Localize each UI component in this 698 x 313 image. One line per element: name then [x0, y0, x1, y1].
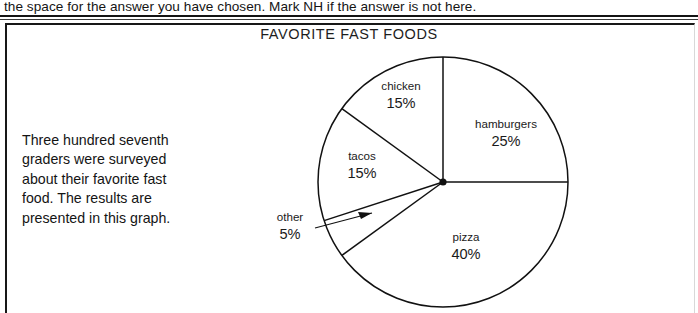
problem-statement-text: Three hundred seventh graders were surve… [22, 131, 200, 228]
slice-name-tacos: tacos [348, 149, 376, 162]
horizontal-rule-thick [0, 15, 698, 17]
pie-slice-label-other: other5% [277, 210, 304, 242]
horizontal-rule-thin [0, 19, 698, 20]
slice-name-hamburgers: hamburgers [475, 117, 537, 130]
slice-name-pizza: pizza [452, 230, 480, 243]
slice-percent-tacos: 15% [347, 165, 376, 181]
pie-slice-label-tacos: tacos15% [347, 149, 376, 181]
pie-center-dot [439, 178, 446, 185]
slice-percent-pizza: 40% [451, 246, 480, 262]
pie-chart-favorite-fast-foods: hamburgers25%pizza40%other5%tacos15%chic… [250, 46, 590, 312]
slice-percent-chicken: 15% [386, 95, 415, 111]
instruction-line: the space for the answer you have chosen… [4, 0, 694, 15]
slice-percent-hamburgers: 25% [491, 133, 520, 149]
slice-percent-other: 5% [279, 226, 300, 242]
pie-slice-label-chicken: chicken15% [381, 79, 420, 111]
slice-name-other: other [277, 210, 304, 223]
chart-title: FAVORITE FAST FOODS [0, 26, 698, 42]
slice-name-chicken: chicken [381, 79, 420, 92]
pie-slice-label-pizza: pizza40% [451, 230, 480, 262]
